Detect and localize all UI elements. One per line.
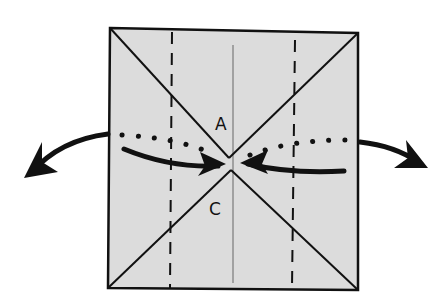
label-c: C: [209, 199, 221, 219]
label-a: A: [215, 114, 227, 134]
swing-arrowhead-left-icon: [24, 142, 58, 178]
origami-diagram: [0, 0, 447, 302]
